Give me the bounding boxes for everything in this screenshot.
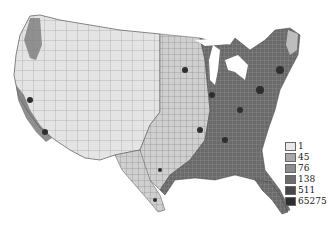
legend: 1 45 76 138 511 65275	[285, 141, 327, 207]
legend-swatch	[285, 186, 296, 195]
legend-swatch	[285, 164, 296, 173]
legend-swatch	[285, 153, 296, 162]
legend-item: 1	[285, 141, 327, 152]
legend-label: 138	[298, 175, 315, 184]
legend-swatch	[285, 197, 296, 206]
legend-label: 76	[298, 164, 309, 173]
legend-swatch	[285, 142, 296, 151]
us-landmass	[14, 15, 300, 214]
legend-label: 511	[298, 186, 315, 195]
legend-label: 45	[298, 153, 309, 162]
legend-item: 511	[285, 185, 327, 196]
legend-item: 45	[285, 152, 327, 163]
legend-item: 65275	[285, 196, 327, 207]
legend-swatch	[285, 175, 296, 184]
legend-label: 65275	[298, 197, 327, 206]
legend-item: 76	[285, 163, 327, 174]
legend-item: 138	[285, 174, 327, 185]
us-county-map	[0, 0, 334, 231]
legend-label: 1	[298, 142, 304, 151]
